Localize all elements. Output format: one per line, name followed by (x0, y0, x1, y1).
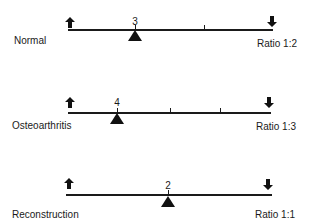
lever-beam (68, 29, 273, 31)
arrow-down-icon (263, 179, 273, 190)
fulcrum-triangle (128, 30, 142, 41)
arrow-down-icon (267, 16, 277, 27)
fulcrum-triangle (110, 113, 124, 124)
lever-row-osteoarthritis: 4 Osteoarthritis Ratio 1:3 (0, 83, 310, 143)
ratio-label: Ratio 1:1 (255, 209, 295, 221)
ratio-label: Ratio 1:2 (257, 38, 297, 50)
tick-mark (170, 108, 171, 113)
ratio-label: Ratio 1:3 (256, 121, 296, 133)
arrow-up-icon (65, 17, 75, 28)
tick-mark (204, 25, 205, 30)
arrow-up-icon (65, 97, 75, 108)
fulcrum-position-label: 4 (111, 98, 123, 108)
lever-row-reconstruction: 2 Reconstruction Ratio 1:1 (0, 165, 310, 223)
condition-label: Osteoarthritis (12, 120, 71, 132)
condition-label: Reconstruction (12, 209, 79, 221)
arrow-down-icon (264, 97, 274, 108)
fulcrum-triangle (161, 196, 175, 207)
tick-mark (168, 190, 169, 195)
condition-label: Normal (14, 35, 46, 47)
lever-row-normal: 3 Normal Ratio 1:2 (0, 0, 310, 60)
tick-mark (220, 108, 221, 113)
arrow-up-icon (64, 178, 74, 189)
